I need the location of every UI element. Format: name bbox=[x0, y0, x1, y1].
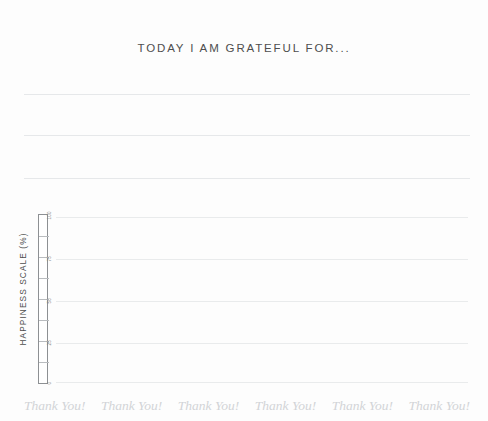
gridline-50 bbox=[56, 301, 468, 302]
thank-you-text: Thank You! bbox=[332, 398, 393, 414]
thermometer-segment bbox=[39, 278, 49, 279]
page-title: TODAY I AM GRATEFUL FOR... bbox=[0, 42, 488, 54]
thank-you-text: Thank You! bbox=[178, 398, 239, 414]
gridline-0 bbox=[56, 382, 468, 383]
writing-line-2[interactable] bbox=[24, 135, 470, 136]
writing-line-1[interactable] bbox=[24, 94, 470, 95]
thermometer-segment bbox=[39, 236, 49, 237]
y-tick-label-25: 25 bbox=[47, 328, 52, 346]
thank-you-text: Thank You! bbox=[409, 398, 470, 414]
thank-you-text: Thank You! bbox=[101, 398, 162, 414]
gridline-100 bbox=[56, 217, 468, 218]
y-tick-label-100: 100 bbox=[47, 202, 52, 220]
happiness-scale-chart: HAPPINESS SCALE (%) 100 75 50 25 0 bbox=[0, 212, 488, 388]
y-tick-label-50: 50 bbox=[47, 286, 52, 304]
y-axis-label: HAPPINESS SCALE (%) bbox=[18, 219, 28, 359]
thank-you-row: Thank You! Thank You! Thank You! Thank Y… bbox=[24, 398, 470, 414]
thank-you-text: Thank You! bbox=[255, 398, 316, 414]
thermometer-segment bbox=[39, 320, 49, 321]
thermometer-segment bbox=[39, 362, 49, 363]
journal-page: TODAY I AM GRATEFUL FOR... HAPPINESS SCA… bbox=[0, 0, 488, 421]
y-tick-label-75: 75 bbox=[47, 244, 52, 262]
writing-line-3[interactable] bbox=[24, 178, 470, 179]
thank-you-text: Thank You! bbox=[24, 398, 85, 414]
gridline-25 bbox=[56, 343, 468, 344]
gridline-75 bbox=[56, 259, 468, 260]
y-tick-label-0: 0 bbox=[47, 367, 52, 385]
